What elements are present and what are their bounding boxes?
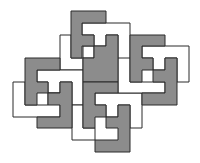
polyomino-pieces xyxy=(13,11,189,152)
tiling-diagram xyxy=(0,0,200,163)
